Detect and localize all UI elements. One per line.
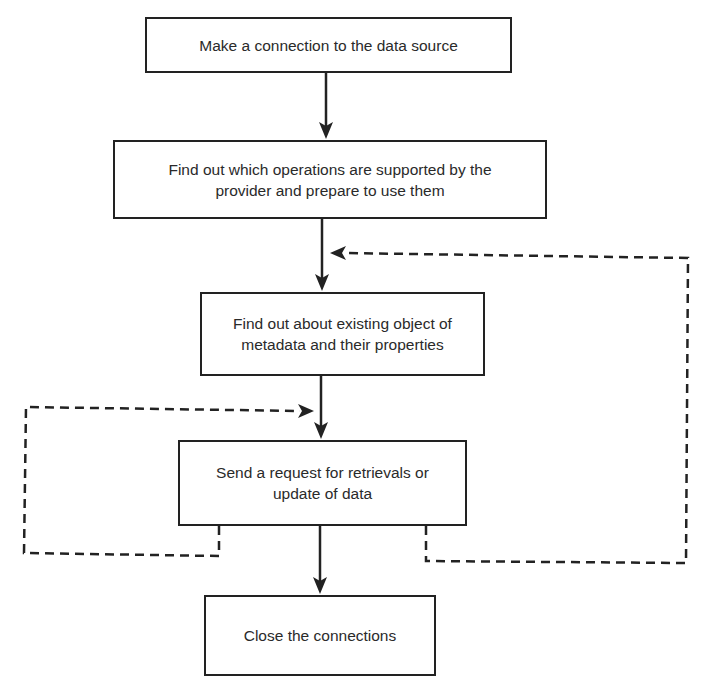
node-text-line: provider and prepare to use them [168, 180, 491, 201]
arrowhead-icon [330, 246, 346, 260]
edge-n2-n3 [315, 219, 329, 291]
step-close-connections: Close the connections [204, 595, 436, 676]
node-text-line: Find out which operations are supported … [168, 159, 491, 180]
step-find-metadata: Find out about existing object of metada… [200, 292, 485, 376]
node-text-line: Find out about existing object of [233, 313, 452, 334]
step-make-connection: Make a connection to the data source [145, 17, 512, 73]
edge-n3-n4 [314, 376, 328, 439]
node-text-line: Close the connections [244, 625, 397, 646]
arrowhead-icon [298, 404, 314, 418]
step-send-request: Send a request for retrievals or update … [178, 440, 467, 526]
flowchart: Make a connection to the data source Fin… [0, 0, 708, 700]
edge-n4-n5 [313, 526, 327, 594]
node-text-line: Make a connection to the data source [199, 35, 458, 56]
step-find-operations: Find out which operations are supported … [113, 140, 547, 219]
node-text-line: update of data [216, 483, 429, 504]
node-text-line: Send a request for retrievals or [216, 462, 429, 483]
edge-n1-n2 [319, 73, 333, 139]
node-text-line: metadata and their properties [233, 334, 452, 355]
